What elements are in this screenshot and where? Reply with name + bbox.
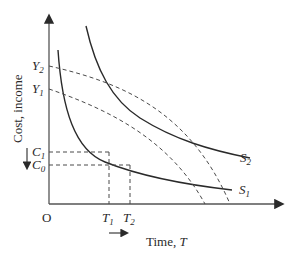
income-line-y1 — [49, 89, 205, 204]
axes — [49, 16, 282, 204]
x-tick-labels: T1 T2 — [102, 210, 135, 227]
curve-s2 — [86, 26, 250, 158]
tick-y1: Y1 — [32, 81, 44, 98]
projection-lines — [49, 152, 130, 204]
curve-labels: S2 S1 — [239, 150, 252, 199]
tick-t1: T1 — [102, 210, 114, 227]
label-s2: S2 — [240, 150, 252, 167]
tick-y2: Y2 — [32, 58, 44, 75]
label-s1: S1 — [239, 182, 250, 199]
tick-t2: T2 — [123, 210, 135, 227]
curve-s1 — [58, 50, 232, 190]
y-axis-label: Cost, income — [10, 74, 25, 143]
diagram-canvas: Y2 Y1 C1 C0 Cost, income O T1 T2 Time, T… — [0, 0, 300, 256]
origin-label: O — [42, 210, 51, 225]
y-tick-labels: Y2 Y1 C1 C0 — [32, 58, 46, 174]
x-axis-label: Time, T — [146, 234, 187, 249]
